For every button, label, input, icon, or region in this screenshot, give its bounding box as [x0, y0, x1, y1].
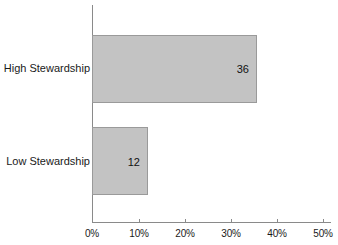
x-axis-tick-label-3: 30%: [214, 228, 248, 239]
x-axis-tick-5: [323, 219, 324, 223]
x-axis-tick-4: [277, 219, 278, 223]
y-axis-category-label-low-stewardship: Low Stewardship: [6, 155, 90, 167]
x-axis-tick-label-4: 40%: [260, 228, 294, 239]
x-axis-tick-3: [231, 219, 232, 223]
bar-value-label-high-stewardship: 36: [207, 63, 249, 75]
x-axis-tick-2: [185, 219, 186, 223]
x-axis-tick-label-5: 50%: [306, 228, 338, 239]
x-axis-tick-label-0: 0%: [75, 228, 109, 239]
x-axis-tick-label-2: 20%: [168, 228, 202, 239]
x-axis-tick-label-1: 10%: [122, 228, 156, 239]
y-axis-category-label-high-stewardship: High Stewardship: [4, 62, 90, 74]
x-axis-line: [92, 222, 331, 223]
x-axis-tick-0: [92, 219, 93, 223]
x-axis-tick-1: [139, 219, 140, 223]
bar-value-label-low-stewardship: 12: [98, 156, 140, 168]
